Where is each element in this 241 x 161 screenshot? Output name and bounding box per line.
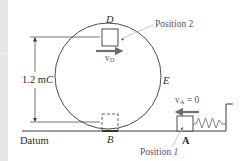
label-datum: Datum	[20, 136, 49, 147]
label-position-1: Position 1	[140, 148, 178, 158]
spring	[193, 118, 226, 128]
wall	[226, 104, 233, 131]
label-height: 1.2 mC	[22, 75, 53, 86]
position-1-number: 1	[174, 147, 179, 157]
label-point-b: B	[107, 135, 113, 146]
label-velocity-d: vD	[105, 54, 114, 64]
label-point-a: A	[182, 136, 190, 147]
label-point-c: C	[46, 74, 53, 85]
position-1-text: Position	[140, 147, 171, 157]
label-position-2: Position 2	[155, 20, 193, 30]
leader-position-2	[121, 25, 153, 39]
height-value: 1.2 m	[22, 74, 46, 85]
label-velocity-a: vA = 0	[175, 96, 199, 106]
block-position-1	[177, 116, 193, 131]
velocity-a-value: = 0	[184, 95, 199, 105]
label-point-e: E	[163, 76, 169, 87]
block-position-2	[102, 29, 118, 46]
label-point-d: D	[106, 15, 114, 26]
velocity-d-subscript: D	[110, 56, 115, 63]
